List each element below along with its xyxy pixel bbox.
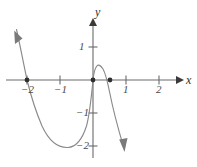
x-tick-label-minus2: −2 [21,84,34,95]
x-axis-label: x [186,74,191,86]
root-dot-half [108,78,113,83]
root-dot-minus2 [25,78,30,83]
root-dot-origin [91,78,96,83]
y-axis-arrowhead [89,18,97,26]
y-tick-label-minus2: −2 [76,140,89,151]
curve-arrowhead-upper-left [14,31,22,45]
x-tick-label-minus1: −1 [54,84,67,95]
x-axis-arrowhead [176,76,184,84]
y-axis-label: y [95,6,100,18]
x-tick-label-1: 1 [123,84,129,95]
curve-arrowhead-lower-right [119,138,127,152]
x-tick-label-2: 2 [156,84,162,95]
y-tick-label-minus1: −1 [76,107,89,118]
y-tick-label-1: 1 [79,41,85,52]
graph-figure: −2 −1 1 2 1 −1 −2 x y [0,0,197,167]
